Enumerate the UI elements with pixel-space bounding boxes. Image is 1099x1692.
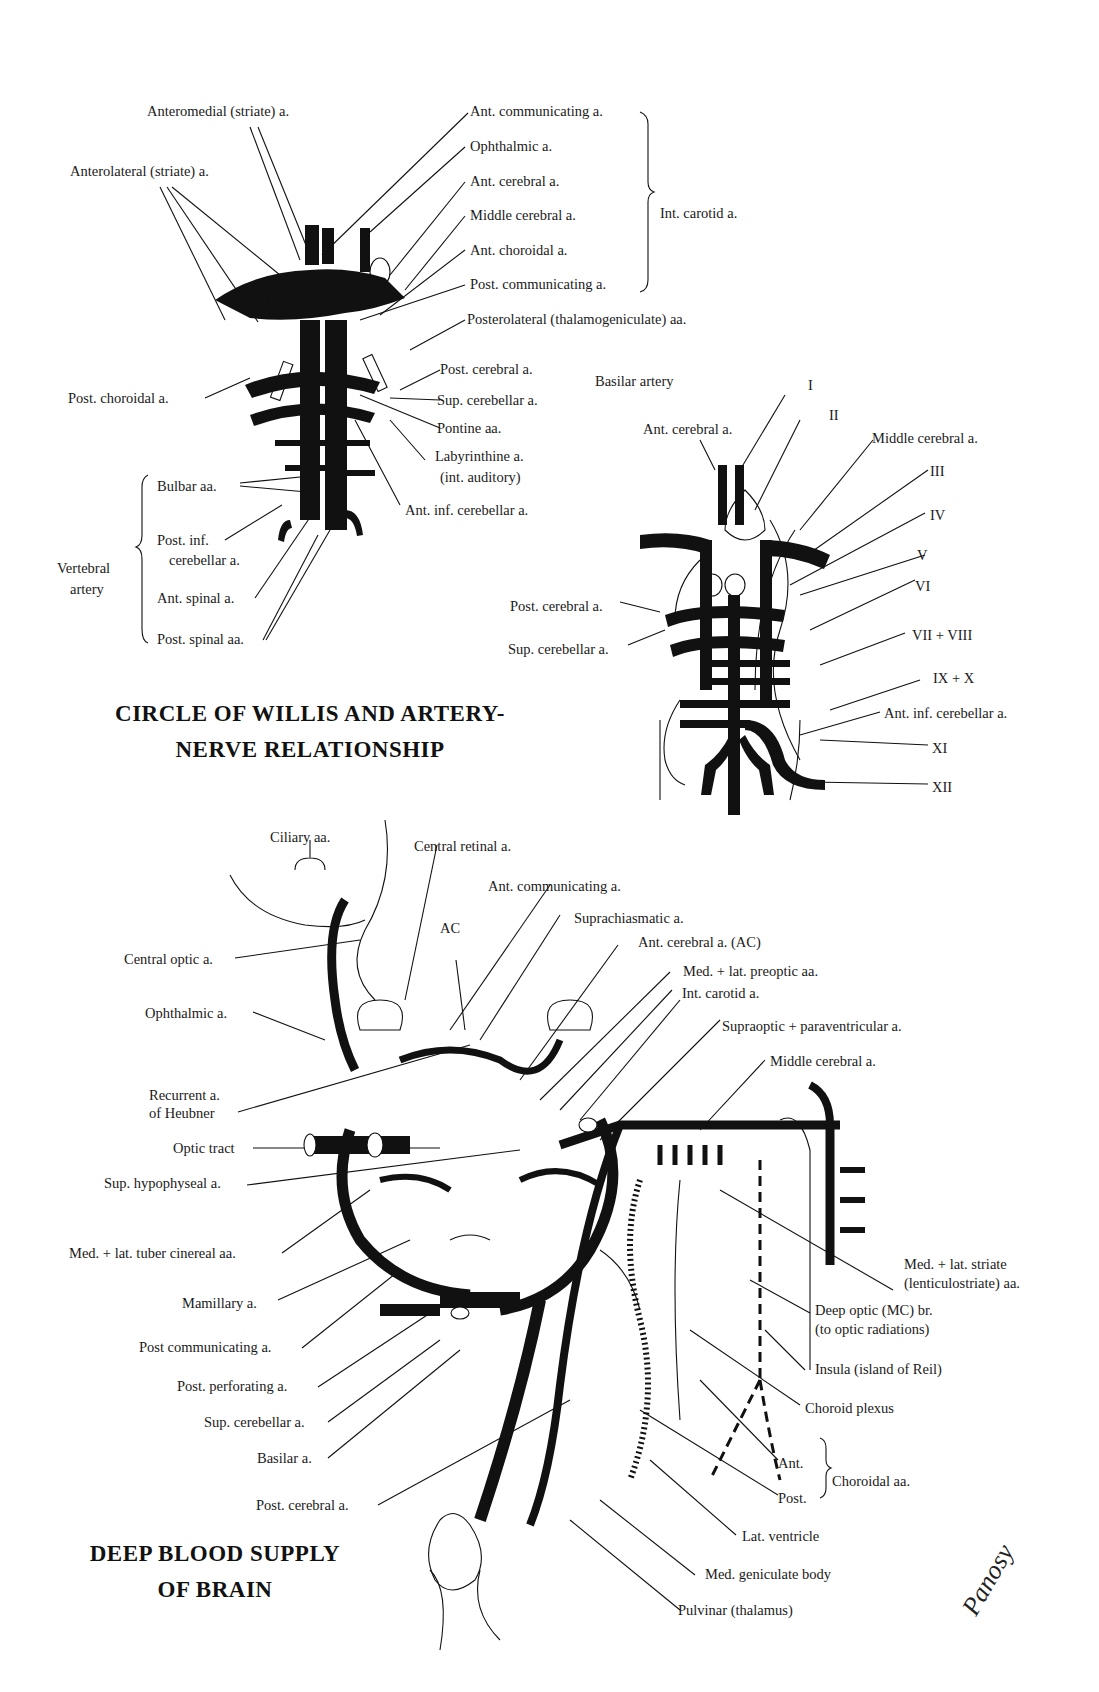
section-title-circle-of-willis: CIRCLE OF WILLIS AND ARTERY- NERVE RELAT… (60, 696, 560, 768)
label-supraoptic: Supraoptic + paraventricular a. (722, 1018, 902, 1035)
label-post-spinal: Post. spinal aa. (157, 631, 244, 648)
section-title-deep-blood-supply: DEEP BLOOD SUPPLY OF BRAIN (60, 1536, 370, 1608)
label-choroidal-post: Post. (778, 1490, 807, 1507)
label-posterolateral: Posterolateral (thalamogeniculate) aa. (467, 311, 686, 328)
label-bulbar: Bulbar aa. (157, 478, 217, 495)
title-line-1: DEEP BLOOD SUPPLY (60, 1536, 370, 1572)
label-post-inf-cerebellar: cerebellar a. (169, 552, 240, 569)
label-sup-cerebellar: Sup. cerebellar a. (437, 392, 538, 409)
label-post-perforating: Post. perforating a. (177, 1378, 287, 1395)
label-int-carotid-deep: Int. carotid a. (682, 985, 759, 1002)
label-deep-optic: Deep optic (MC) br. (815, 1302, 933, 1319)
artery-nerve-vessels (640, 465, 830, 815)
label-vertebral-artery: artery (70, 581, 104, 598)
nerve-iv: IV (930, 507, 945, 524)
nerve-ii: II (829, 407, 839, 424)
label-int-auditory: (int. auditory) (440, 469, 521, 486)
label-med-geniculate: Med. geniculate body (705, 1566, 831, 1583)
title-line-2: NERVE RELATIONSHIP (60, 732, 560, 768)
label-ophthalmic: Ophthalmic a. (470, 138, 552, 155)
label-pulvinar: Pulvinar (thalamus) (678, 1602, 793, 1619)
label-ant-inf-cerebellar-nerve: Ant. inf. cerebellar a. (884, 705, 1007, 722)
label-lat-ventricle: Lat. ventricle (742, 1528, 819, 1545)
title-line-1: CIRCLE OF WILLIS AND ARTERY- (60, 696, 560, 732)
nerve-iii: III (930, 463, 945, 480)
label-tuber-cinereal: Med. + lat. tuber cinereal aa. (69, 1245, 236, 1262)
label-choroid-plexus: Choroid plexus (805, 1400, 894, 1417)
label-post-cerebral: Post. cerebral a. (440, 361, 533, 378)
label-labyrinthine: Labyrinthine a. (435, 448, 524, 465)
nerve-i: I (808, 377, 813, 394)
circle-of-willis-vessels (215, 225, 405, 542)
label-sup-hypophyseal: Sup. hypophyseal a. (104, 1175, 221, 1192)
label-sup-cerebellar-nerve: Sup. cerebellar a. (508, 641, 609, 658)
label-post-communicating-deep: Post communicating a. (139, 1339, 272, 1356)
title-line-2: OF BRAIN (60, 1572, 370, 1608)
label-lenticulostriate: (lenticulostriate) aa. (904, 1275, 1020, 1292)
label-ophthalmic-deep: Ophthalmic a. (145, 1005, 227, 1022)
label-post-choroidal: Post. choroidal a. (68, 390, 169, 407)
label-recurrent: Recurrent a. (149, 1087, 220, 1104)
nerve-ix-x: IX + X (933, 670, 974, 687)
label-ciliary: Ciliary aa. (270, 829, 330, 846)
label-int-carotid-group: Int. carotid a. (660, 205, 737, 222)
label-anteromedial-striate: Anteromedial (striate) a. (147, 103, 289, 120)
label-ant-communicating-deep: Ant. communicating a. (488, 878, 621, 895)
label-ant-cerebral-nerve: Ant. cerebral a. (643, 421, 732, 438)
label-post-inf: Post. inf. (157, 532, 209, 549)
label-mamillary: Mamillary a. (182, 1295, 257, 1312)
label-ant-inf-cerebellar: Ant. inf. cerebellar a. (405, 502, 528, 519)
label-optic-radiations: (to optic radiations) (815, 1321, 929, 1338)
label-central-retinal: Central retinal a. (414, 838, 511, 855)
nerve-xii: XII (932, 779, 952, 796)
label-ant-communicating: Ant. communicating a. (470, 103, 603, 120)
nerve-xi: XI (932, 740, 947, 757)
label-ant-spinal: Ant. spinal a. (157, 590, 234, 607)
nerve-v: V (917, 547, 927, 564)
label-ac: AC (440, 920, 460, 937)
label-ant-choroidal: Ant. choroidal a. (470, 242, 567, 259)
nerve-vi: VI (915, 578, 930, 595)
label-of-heubner: of Heubner (149, 1105, 215, 1122)
label-pontine: Pontine aa. (437, 420, 501, 437)
label-post-communicating: Post. communicating a. (470, 276, 606, 293)
label-post-cerebral-deep: Post. cerebral a. (256, 1497, 349, 1514)
label-basilar-deep: Basilar a. (257, 1450, 312, 1467)
label-middle-cerebral-nerve: Middle cerebral a. (872, 430, 978, 447)
label-middle-cerebral-deep: Middle cerebral a. (770, 1053, 876, 1070)
label-central-optic: Central optic a. (124, 951, 213, 968)
label-choroidal-aa: Choroidal aa. (832, 1473, 910, 1490)
label-ant-cerebral-ac: Ant. cerebral a. (AC) (638, 934, 761, 951)
label-choroidal-ant: Ant. (778, 1455, 803, 1472)
label-vertebral: Vertebral (57, 560, 110, 577)
deep-supply-vessels (310, 900, 865, 1525)
label-striate: Med. + lat. striate (904, 1256, 1007, 1273)
label-basilar-artery: Basilar artery (595, 373, 674, 390)
label-sup-cerebellar-deep: Sup. cerebellar a. (204, 1414, 305, 1431)
label-optic-tract: Optic tract (173, 1140, 235, 1157)
label-ant-cerebral: Ant. cerebral a. (470, 173, 559, 190)
label-insula: Insula (island of Reil) (815, 1361, 942, 1378)
label-suprachiasmatic: Suprachiasmatic a. (574, 910, 684, 927)
label-preoptic: Med. + lat. preoptic aa. (683, 963, 818, 980)
label-post-cerebral-nerve: Post. cerebral a. (510, 598, 603, 615)
label-anterolateral-striate: Anterolateral (striate) a. (70, 163, 209, 180)
nerve-vii-viii: VII + VIII (912, 627, 972, 644)
label-middle-cerebral: Middle cerebral a. (470, 207, 576, 224)
